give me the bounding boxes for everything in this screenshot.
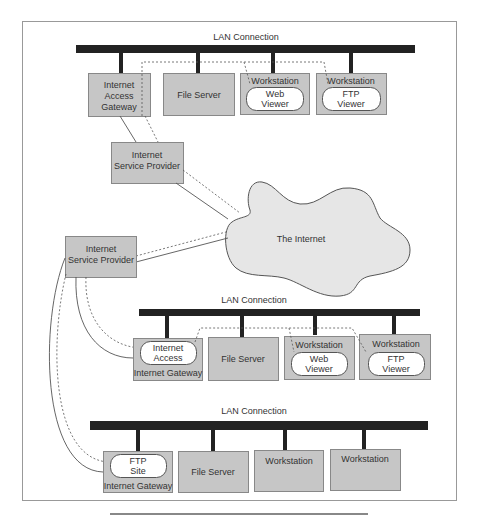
- middle-file-server: File Server: [209, 338, 279, 381]
- middle-workstation-web: Workstation Web Viewer: [285, 337, 355, 380]
- bottom-drop-ws-1: [283, 430, 287, 450]
- internet-label: The Internet: [277, 234, 326, 244]
- file-server-label: File Server: [191, 467, 235, 477]
- middle-drop-ws-ftp: [392, 316, 396, 334]
- isp-label-1: Internet: [86, 244, 117, 254]
- bottom-internet-gateway: FTP Site Internet Gateway: [104, 452, 173, 493]
- file-server-label: File Server: [177, 90, 221, 100]
- dashed-isp2-middle-gateway: [86, 277, 140, 348]
- top-lan: LAN Connection Internet Access Gateway F…: [76, 32, 415, 117]
- workstation-label: Workstation: [327, 76, 374, 86]
- bottom-lan: LAN Connection FTP Site Internet Gateway…: [90, 406, 428, 493]
- pill-label-2: Viewer: [261, 99, 288, 109]
- dashed-isp2-internet: [136, 232, 226, 256]
- bottom-workstation-1: Workstation: [255, 451, 324, 492]
- gateway-label: Internet Gateway: [104, 481, 173, 491]
- gateway-label-2: Access: [104, 91, 134, 101]
- pill-label-1: FTP: [130, 456, 147, 466]
- middle-lan-bus: [139, 309, 420, 316]
- pill-label-2: Viewer: [305, 364, 332, 374]
- dashed-isp2-bottom-gateway: [57, 274, 108, 462]
- top-drop-ws-web: [271, 53, 275, 73]
- top-internet-access-gateway: Internet Access Gateway: [89, 74, 151, 117]
- isp-label-2: Service Provider: [68, 255, 134, 265]
- network-diagram: LAN Connection Internet Access Gateway F…: [0, 0, 477, 521]
- bottom-drop-gateway: [136, 430, 140, 451]
- top-workstation-web: Workstation Web Viewer: [241, 74, 310, 115]
- isp-top: Internet Service Provider: [112, 116, 241, 219]
- link-isp2-internet: [136, 238, 228, 262]
- pill-label-2: Site: [130, 466, 146, 476]
- top-lan-bus: [76, 45, 415, 53]
- link-gateway-isp: [120, 116, 136, 142]
- bottom-workstation-2: Workstation: [331, 450, 401, 491]
- dashed-gateway-isp: [145, 116, 158, 142]
- gateway-label-1: Internet: [104, 80, 135, 90]
- bottom-file-server: File Server: [179, 452, 249, 493]
- top-drop-ws-ftp: [349, 53, 353, 73]
- workstation-label: Workstation: [372, 339, 419, 349]
- middle-workstation-ftp: Workstation FTP Viewer: [360, 335, 431, 380]
- bottom-lan-label: LAN Connection: [221, 406, 287, 416]
- pill-label-2: Viewer: [337, 99, 364, 109]
- middle-lan: LAN Connection Internet Access Internet …: [134, 295, 431, 381]
- pill-label-2: Viewer: [382, 364, 409, 374]
- workstation-label: Workstation: [251, 76, 298, 86]
- middle-internet-gateway: Internet Access Internet Gateway: [134, 339, 203, 381]
- pill-label-1: FTP: [343, 89, 360, 99]
- middle-drop-fileserver: [240, 316, 244, 337]
- link-isp-internet: [176, 183, 228, 219]
- workstation-label: Workstation: [265, 456, 312, 466]
- pill-label-1: Internet: [153, 343, 184, 353]
- pill-label-1: Web: [266, 89, 284, 99]
- top-drop-fileserver: [196, 53, 200, 73]
- top-drop-gateway: [119, 53, 123, 73]
- bottom-drop-fileserver: [211, 430, 215, 451]
- isp-label-1: Internet: [132, 150, 163, 160]
- workstation-label: Workstation: [295, 340, 342, 350]
- pill-label-1: Web: [310, 354, 328, 364]
- top-file-server: File Server: [164, 74, 235, 116]
- middle-drop-ws-web: [313, 316, 317, 335]
- middle-lan-label: LAN Connection: [221, 295, 287, 305]
- internet-cloud: The Internet: [226, 182, 410, 296]
- bottom-lan-bus: [90, 421, 428, 430]
- top-lan-label: LAN Connection: [213, 32, 279, 42]
- pill-label-1: FTP: [388, 354, 405, 364]
- isp-label-2: Service Provider: [114, 161, 180, 171]
- pill-label-2: Access: [153, 353, 183, 363]
- dashed-isp-internet: [183, 170, 240, 213]
- gateway-label: Internet Gateway: [134, 368, 203, 378]
- link-isp2-middle-gateway: [76, 277, 133, 358]
- bottom-drop-ws-2: [362, 430, 366, 449]
- file-server-label: File Server: [221, 354, 265, 364]
- gateway-label-3: Gateway: [101, 102, 137, 112]
- middle-drop-gateway: [165, 316, 169, 338]
- workstation-label: Workstation: [341, 454, 388, 464]
